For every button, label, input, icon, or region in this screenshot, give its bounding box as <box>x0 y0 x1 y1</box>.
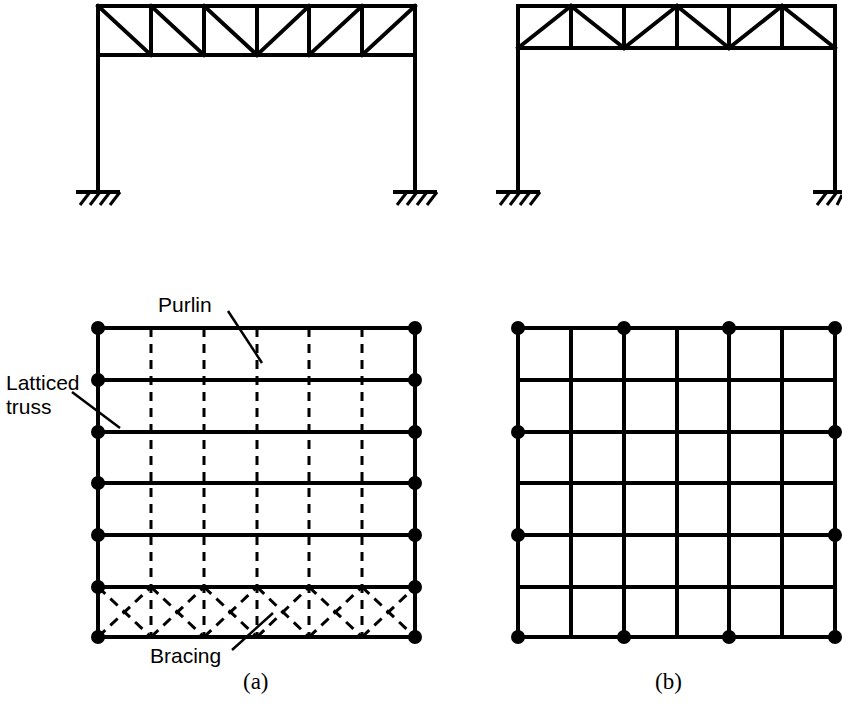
node <box>91 373 105 387</box>
bracing-member <box>204 587 257 637</box>
node <box>408 373 422 387</box>
latticed-truss-label-line1: Latticed <box>6 371 80 394</box>
bracing-member <box>151 587 204 637</box>
node <box>617 630 631 644</box>
caption-a: (a) <box>243 669 269 694</box>
node <box>511 528 525 542</box>
support-a-right <box>393 192 437 205</box>
portal-frame-elevation-a <box>98 6 415 192</box>
node <box>511 425 525 439</box>
node <box>91 425 105 439</box>
bracing-label: Bracing <box>150 644 221 667</box>
node <box>408 476 422 490</box>
node <box>828 630 842 644</box>
latticed-truss-label-line2: truss <box>6 395 52 418</box>
structural-framing-figure: Purlin Latticed truss Bracing <box>0 0 842 708</box>
node <box>511 321 525 335</box>
node <box>408 425 422 439</box>
node <box>722 630 736 644</box>
node <box>617 321 631 335</box>
portal-frame-elevation-b <box>518 6 835 192</box>
bracing-leader-line <box>232 613 273 650</box>
node <box>408 528 422 542</box>
bracing-member <box>309 587 362 637</box>
roof-plan-a <box>91 321 422 644</box>
node <box>91 321 105 335</box>
bracing-member <box>98 587 151 637</box>
support-b-right <box>813 192 842 205</box>
node <box>408 580 422 594</box>
support-a-left <box>76 192 120 205</box>
roof-plan-b <box>511 321 842 644</box>
figure-canvas: Purlin Latticed truss Bracing <box>0 0 842 708</box>
node <box>91 476 105 490</box>
node <box>828 528 842 542</box>
node <box>91 630 105 644</box>
node <box>91 528 105 542</box>
node <box>511 630 525 644</box>
node <box>828 321 842 335</box>
bracing-member <box>257 587 309 637</box>
node <box>408 630 422 644</box>
node <box>722 321 736 335</box>
node <box>828 425 842 439</box>
support-b-left <box>496 192 540 205</box>
node <box>408 321 422 335</box>
bracing-member <box>362 587 415 637</box>
node <box>91 580 105 594</box>
purlin-label: Purlin <box>158 293 212 316</box>
caption-b: (b) <box>655 669 682 694</box>
